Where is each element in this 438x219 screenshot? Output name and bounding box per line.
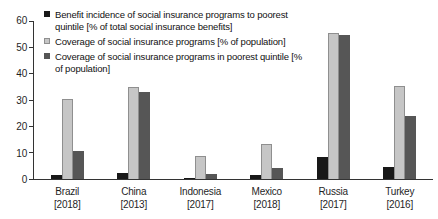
x-axis-category-label: Russia[2017] [319,185,348,211]
country-year: [2013] [120,198,147,211]
y-axis-tick-label: 40 [16,69,27,79]
y-axis-tick-label: 30 [16,96,27,106]
y-axis-tick-mark [29,126,33,127]
bar-series2-mexico [261,144,272,179]
bar-series2-indonesia [195,156,206,179]
y-axis-tick-label: 50 [16,43,27,53]
bar-series3-mexico [272,168,283,179]
x-axis-category-label: Indonesia[2017] [179,185,221,211]
y-axis-tick-label: 60 [16,16,27,26]
bar-series1-china [117,173,128,179]
country-year: [2016] [385,198,414,211]
x-axis-category-label: Mexico[2018] [252,185,282,211]
x-axis-category-label: Turkey[2016] [385,185,414,211]
bar-series1-turkey [383,167,394,179]
y-axis-tick-label: 20 [16,122,27,132]
y-axis-tick-mark [29,179,33,180]
bar-series2-turkey [394,86,405,179]
chart-legend: Benefit incidence of social insurance pr… [44,9,306,74]
legend-square-icon [44,53,50,59]
y-axis-tick-mark [29,73,33,74]
bar-series1-russia [317,157,328,179]
country-year: [2018] [252,198,282,211]
bar-group-turkey: Turkey[2016] [383,21,416,179]
bar-series3-russia [339,35,350,179]
bar-series3-brazil [73,151,84,179]
y-axis-tick-mark [29,47,33,48]
bar-series3-turkey [405,116,416,179]
y-axis-tick-label: 10 [16,149,27,159]
bar-series3-china [139,92,150,179]
legend-label: Benefit incidence of social insurance pr… [55,9,306,33]
bar-series2-brazil [62,99,73,179]
country-name: Indonesia [179,185,221,198]
country-name: Brazil [54,185,81,198]
bar-series2-china [128,87,139,179]
y-axis-labels: 0102030405060 [0,21,27,180]
country-year: [2017] [319,198,348,211]
y-axis-tick-label: 0 [22,175,27,185]
bar-series1-brazil [51,175,62,179]
country-name: Russia [319,185,348,198]
country-year: [2018] [54,198,81,211]
legend-label: Coverage of social insurance programs [%… [55,36,285,48]
country-name: China [120,185,147,198]
bar-series1-indonesia [184,178,195,179]
legend-item: Coverage of social insurance programs [%… [44,36,306,48]
country-name: Mexico [252,185,282,198]
country-year: [2017] [179,198,221,211]
legend-item: Benefit incidence of social insurance pr… [44,9,306,33]
x-axis-category-label: China[2013] [120,185,147,211]
legend-item: Coverage of social insurance programs in… [44,51,306,75]
bar-chart: Benefit incidence of social insurance pr… [0,0,438,219]
bar-series2-russia [328,33,339,179]
legend-square-icon [44,11,50,17]
legend-label: Coverage of social insurance programs in… [55,51,306,75]
x-axis-category-label: Brazil[2018] [54,185,81,211]
y-axis-tick-mark [29,100,33,101]
y-axis-tick-mark [29,21,33,22]
legend-square-icon [44,38,50,44]
bar-series1-mexico [250,175,261,179]
bar-series3-indonesia [206,174,217,179]
country-name: Turkey [385,185,414,198]
y-axis-tick-mark [29,152,33,153]
bar-group-russia: Russia[2017] [317,21,350,179]
